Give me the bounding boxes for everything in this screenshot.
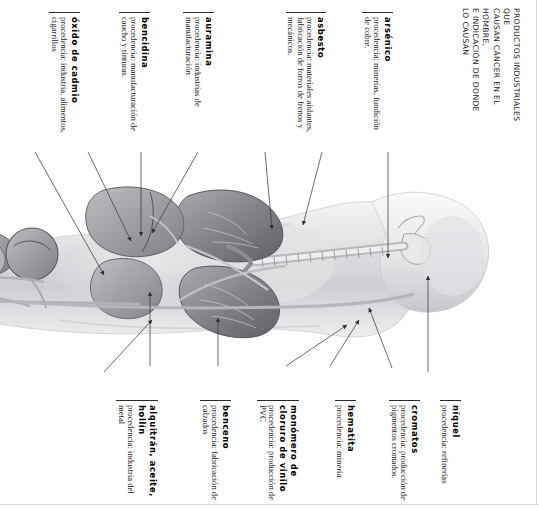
head-and-neck — [372, 192, 489, 312]
label-auramina-title: auramina — [203, 17, 214, 128]
label-benceno: benceno procedencia: fabricación de calz… — [200, 400, 231, 504]
label-monomero-de-cloruro-de-vinilo: monómero de cloruro de vinilo procedenci… — [257, 400, 299, 508]
liver — [86, 187, 184, 257]
label-bencidina: bencidina procedencia: manufacturación d… — [119, 12, 150, 132]
label-benceno-title: benceno — [220, 405, 231, 504]
label-alquitran-aceite-hollin: alquitrán, aceite, hollín procedencia: i… — [116, 400, 158, 504]
label-niquel-body: procedencia: refinerías — [440, 405, 449, 496]
label-arsenico-body: procedencia: minerías, fundición de cobr… — [362, 17, 381, 134]
human-body-illustration — [0, 150, 539, 400]
label-alquitran-title: alquitrán, aceite, hollín — [136, 405, 158, 504]
label-niquel-title: níquel — [450, 405, 461, 496]
label-alquitran-body: procedencia: industria del metal — [116, 405, 135, 504]
label-cromatos-title: cromatos — [409, 405, 420, 504]
title-line-2: CAUSAN CÁNCER EN EL HOMBRE, — [480, 8, 500, 128]
label-oxido-de-cadmio: óxido de cadmio procedencia: industria, … — [49, 12, 80, 136]
label-arsenico-title: arsénico — [382, 17, 393, 134]
poster-page: PRODUCTOS INDUSTRIALES QUE CAUSAN CÁNCER… — [0, 0, 539, 516]
label-asbesto: asbesto procedencia: materiales aislante… — [286, 12, 326, 140]
label-hematita: hematita procedencia: minería — [335, 400, 356, 496]
label-monomero-title: monómero de cloruro de vinilo — [277, 405, 299, 508]
label-hematita-title: hematita — [345, 405, 356, 496]
label-asbesto-title: asbesto — [315, 17, 326, 140]
title-line-4: LO CAUSAN — [460, 8, 470, 128]
label-cromatos: cromatos procedencia: producción de pigm… — [389, 400, 420, 504]
title-line-3: E INDICACIÓN DE DONDE — [470, 8, 480, 128]
title-line-1: PRODUCTOS INDUSTRIALES QUE — [501, 8, 521, 128]
label-auramina-body: procedencia: industrias de manufacturaci… — [183, 17, 202, 128]
label-monomero-body: procedencia: producción de PVC — [257, 405, 276, 508]
label-niquel: níquel procedencia: refinerías — [440, 400, 461, 496]
label-auramina: auramina procedencia: industrias de manu… — [183, 12, 214, 128]
label-hematita-body: procedencia: minería — [335, 405, 344, 496]
page-title: PRODUCTOS INDUSTRIALES QUE CAUSAN CÁNCER… — [460, 8, 521, 128]
label-asbesto-body: procedencia: materiales aislantes, fabri… — [286, 17, 314, 140]
label-bencidina-body: procedencia: manufacturación de caucho y… — [119, 17, 138, 132]
label-oxido-de-cadmio-body: procedencia: industria, alimentos, cigar… — [49, 17, 68, 136]
label-oxido-de-cadmio-title: óxido de cadmio — [69, 17, 80, 136]
label-cromatos-body: procedencia: producción de pigmentos cro… — [389, 405, 408, 504]
label-bencidina-title: bencidina — [139, 17, 150, 132]
label-benceno-body: procedencia: fabricación de calzados — [200, 405, 219, 504]
stomach — [90, 258, 162, 318]
label-arsenico: arsénico procedencia: minerías, fundició… — [362, 12, 393, 134]
